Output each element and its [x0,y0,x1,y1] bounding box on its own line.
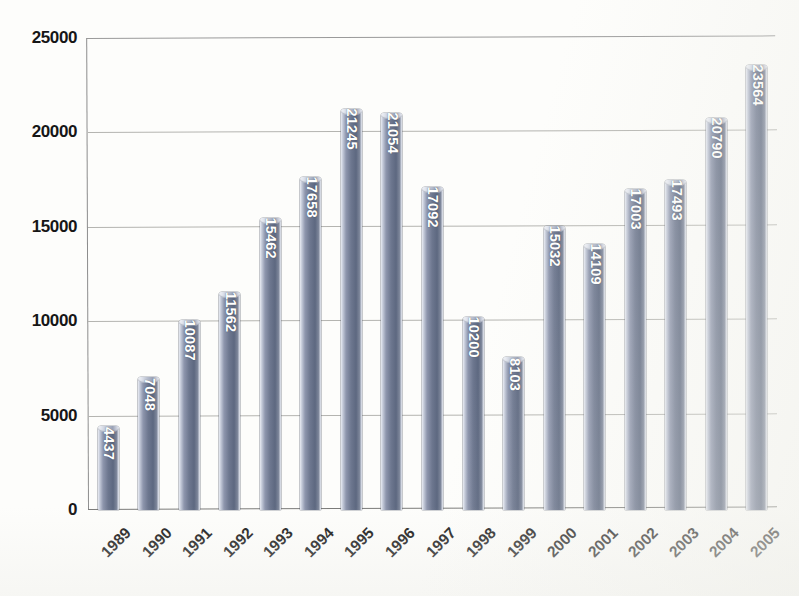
bars-layer: 4437704810087115621546217658212452105417… [88,38,777,510]
bar-slot: 17493 [655,180,696,510]
x-axis-tick-label-1997: 1997 [422,524,459,561]
bar-1993[interactable]: 15462 [260,218,281,510]
bar-value-label: 17658 [295,163,311,204]
bar-value-label: 17493 [660,166,676,207]
bar-2005[interactable]: 23564 [746,65,767,510]
bar-value-text: 10087 [182,319,198,360]
bar-value-label: 10087 [173,306,189,347]
x-axis-tick-label-1994: 1994 [301,524,338,561]
bar-slot: 10200 [453,317,494,510]
bar-1991[interactable]: 10087 [179,320,200,510]
bar-2001[interactable]: 14109 [584,244,605,510]
bar-value-text: 17092 [425,187,441,228]
x-axis-tick-label-2004: 2004 [706,524,743,561]
bar-value-label: 10200 [457,304,473,345]
bar-slot: 4437 [88,426,129,510]
bar-value-label: 20790 [700,104,716,145]
x-axis-tick-label-1991: 1991 [179,524,216,561]
y-axis-tick-label: 15000 [0,217,77,237]
bar-slot: 23564 [736,65,777,510]
bar-value-text: 21245 [344,108,360,149]
bar-value-text: 17493 [668,179,684,220]
bar-value-text: 10200 [466,317,482,358]
bar-slot: 17003 [615,189,656,510]
bar-value-text: 8103 [506,358,522,391]
bar-chart: 4437704810087115621546217658212452105417… [0,0,799,596]
x-axis-tick-label-1998: 1998 [463,524,500,561]
bar-1998[interactable]: 10200 [463,317,484,510]
y-axis-tick-label: 25000 [0,28,77,48]
bar-slot: 8103 [493,357,534,510]
bar-slot: 7048 [129,377,170,510]
bar-value-text: 20790 [709,117,725,158]
y-axis-tick-label: 0 [0,500,77,520]
bar-1996[interactable]: 21054 [381,113,402,510]
bar-slot: 10087 [169,320,210,510]
bar-value-text: 11562 [223,291,239,332]
bar-value-label: 23564 [741,51,757,92]
bar-slot: 17658 [291,177,332,510]
x-axis-tick-label-2000: 2000 [544,524,581,561]
x-axis-tick-label-1996: 1996 [382,524,419,561]
x-axis: 1989199019911992199319941995199619971998… [88,516,777,596]
plot-area: 4437704810087115621546217658212452105417… [88,38,777,510]
bar-1992[interactable]: 11562 [219,292,240,510]
bar-slot: 17092 [412,187,453,510]
bar-1990[interactable]: 7048 [138,377,159,510]
bar-2003[interactable]: 17493 [665,180,686,510]
bar-1999[interactable]: 8103 [503,357,524,510]
bar-value-text: 7048 [142,378,158,411]
bar-value-label: 8103 [498,347,514,380]
bar-value-text: 21054 [385,112,401,153]
bar-slot: 11562 [210,292,251,510]
bar-value-label: 17092 [416,174,432,215]
x-axis-tick-label-2002: 2002 [625,524,662,561]
bar-value-label: 7048 [133,367,149,400]
bar-slot: 15032 [534,226,575,510]
y-axis-tick-label: 5000 [0,406,77,426]
y-axis-tick-label: 10000 [0,311,77,331]
x-axis-tick-label-2005: 2005 [746,524,783,561]
bar-value-text: 14109 [587,243,603,284]
x-axis-tick-label-2001: 2001 [584,524,621,561]
bar-1997[interactable]: 17092 [422,187,443,510]
bar-slot: 21245 [331,109,372,510]
x-axis-tick-label-1995: 1995 [341,524,378,561]
bar-value-text: 17658 [304,176,320,217]
bar-2002[interactable]: 17003 [625,189,646,510]
x-axis-tick-label-1990: 1990 [138,524,175,561]
bar-2000[interactable]: 15032 [544,226,565,510]
x-axis-tick-label-1993: 1993 [260,524,297,561]
x-axis-tick-label-1992: 1992 [219,524,256,561]
x-axis-tick-label-1999: 1999 [503,524,540,561]
bar-slot: 21054 [372,113,413,510]
bar-value-text: 4437 [101,427,117,460]
bar-value-text: 15032 [547,226,563,267]
bar-slot: 20790 [696,118,737,511]
x-axis-tick-label-1989: 1989 [98,524,135,561]
x-axis-tick-label-2003: 2003 [665,524,702,561]
bar-value-label: 21054 [376,99,392,140]
bar-1994[interactable]: 17658 [300,177,321,510]
y-axis-tick-label: 20000 [0,122,77,142]
bar-value-label: 17003 [619,175,635,216]
bar-value-label: 14109 [579,230,595,271]
bar-value-label: 15462 [254,204,270,245]
bar-value-text: 23564 [750,65,766,106]
bar-value-text: 17003 [628,189,644,230]
bar-slot: 14109 [574,244,615,510]
bar-value-label: 11562 [214,278,230,319]
bar-slot: 15462 [250,218,291,510]
bar-value-text: 15462 [263,218,279,259]
bar-1995[interactable]: 21245 [341,109,362,510]
bar-value-label: 15032 [538,213,554,254]
bar-value-label: 21245 [335,95,351,136]
bar-1989[interactable]: 4437 [98,426,119,510]
bar-2004[interactable]: 20790 [706,118,727,511]
bar-value-label: 4437 [92,417,108,450]
